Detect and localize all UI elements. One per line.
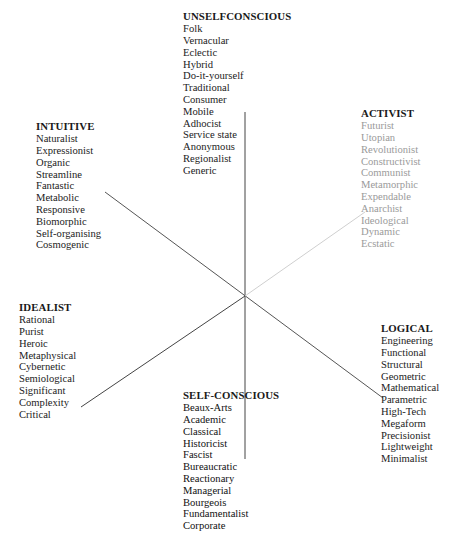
- list-item: Organic: [36, 157, 101, 169]
- list-item: Ideological: [361, 215, 420, 227]
- list-item: Naturalist: [36, 133, 101, 145]
- group-title: LOGICAL: [381, 323, 439, 335]
- list-item: Metaphysical: [19, 350, 76, 362]
- list-item: Revolutionist: [361, 144, 420, 156]
- list-item: Adhocist: [183, 118, 291, 130]
- list-item: Responsive: [36, 204, 101, 216]
- list-item: Managerial: [183, 485, 279, 497]
- list-item: Structural: [381, 359, 439, 371]
- list-item: Metamorphic: [361, 179, 420, 191]
- list-item: Expendable: [361, 191, 420, 203]
- list-item: Engineering: [381, 335, 439, 347]
- group-intuitive: INTUITIVE NaturalistExpressionistOrganic…: [36, 121, 101, 251]
- list-item: Hybrid: [183, 59, 291, 71]
- list-item: Megaform: [381, 418, 439, 430]
- list-item: Functional: [381, 347, 439, 359]
- list-item: Parametric: [381, 394, 439, 406]
- group-activist: ACTIVIST FuturistUtopianRevolutionistCon…: [361, 108, 420, 250]
- group-unselfconscious: UNSELFCONSCIOUS FolkVernacularEclecticHy…: [183, 11, 291, 177]
- list-item: Utopian: [361, 132, 420, 144]
- list-item: Biomorphic: [36, 216, 101, 228]
- list-item: Precisionist: [381, 430, 439, 442]
- list-item: Reactionary: [183, 473, 279, 485]
- list-item: Do-it-yourself: [183, 70, 291, 82]
- list-item: Regionalist: [183, 153, 291, 165]
- list-item: Significant: [19, 385, 76, 397]
- list-item: Academic: [183, 414, 279, 426]
- list-item: Cybernetic: [19, 361, 76, 373]
- list-item: Fundamentalist: [183, 508, 279, 520]
- list-item: Semiological: [19, 373, 76, 385]
- group-title: UNSELFCONSCIOUS: [183, 11, 291, 23]
- list-item: Traditional: [183, 82, 291, 94]
- list-item: Eclectic: [183, 47, 291, 59]
- list-item: Expressionist: [36, 145, 101, 157]
- list-item: Beaux-Arts: [183, 402, 279, 414]
- list-item: Self-organising: [36, 228, 101, 240]
- list-item: Ecstatic: [361, 238, 420, 250]
- list-item: Futurist: [361, 120, 420, 132]
- list-item: Classical: [183, 426, 279, 438]
- list-item: Minimalist: [381, 453, 439, 465]
- list-item: Dynamic: [361, 226, 420, 238]
- axis-activist-faded: [245, 212, 365, 296]
- list-item: Fantastic: [36, 180, 101, 192]
- list-item: Historicist: [183, 438, 279, 450]
- list-item: Constructivist: [361, 156, 420, 168]
- axis-intuitive-logical: [105, 192, 383, 398]
- list-item: Critical: [19, 409, 76, 421]
- group-title: IDEALIST: [19, 302, 76, 314]
- list-item: Bourgeois: [183, 497, 279, 509]
- group-title: ACTIVIST: [361, 108, 420, 120]
- list-item: Service state: [183, 129, 291, 141]
- list-item: Cosmogenic: [36, 239, 101, 251]
- group-title: SELF-CONSCIOUS: [183, 390, 279, 402]
- list-item: Metabolic: [36, 192, 101, 204]
- list-item: Anarchist: [361, 203, 420, 215]
- list-item: Consumer: [183, 94, 291, 106]
- list-item: Anonymous: [183, 141, 291, 153]
- list-item: Fascist: [183, 449, 279, 461]
- list-item: Purist: [19, 326, 76, 338]
- list-item: Vernacular: [183, 35, 291, 47]
- group-selfconscious: SELF-CONSCIOUS Beaux-ArtsAcademicClassic…: [183, 390, 279, 532]
- list-item: Communist: [361, 167, 420, 179]
- group-logical: LOGICAL EngineeringFunctionalStructuralG…: [381, 323, 439, 465]
- list-item: Generic: [183, 165, 291, 177]
- list-item: Lightweight: [381, 441, 439, 453]
- list-item: Corporate: [183, 520, 279, 532]
- list-item: Geometric: [381, 371, 439, 383]
- list-item: Heroic: [19, 338, 76, 350]
- list-item: Mathematical: [381, 382, 439, 394]
- list-item: Folk: [183, 23, 291, 35]
- group-title: INTUITIVE: [36, 121, 101, 133]
- list-item: Mobile: [183, 106, 291, 118]
- list-item: High-Tech: [381, 406, 439, 418]
- list-item: Bureaucratic: [183, 461, 279, 473]
- list-item: Complexity: [19, 397, 76, 409]
- group-idealist: IDEALIST RationalPuristHeroicMetaphysica…: [19, 302, 76, 420]
- list-item: Streamline: [36, 169, 101, 181]
- list-item: Rational: [19, 314, 76, 326]
